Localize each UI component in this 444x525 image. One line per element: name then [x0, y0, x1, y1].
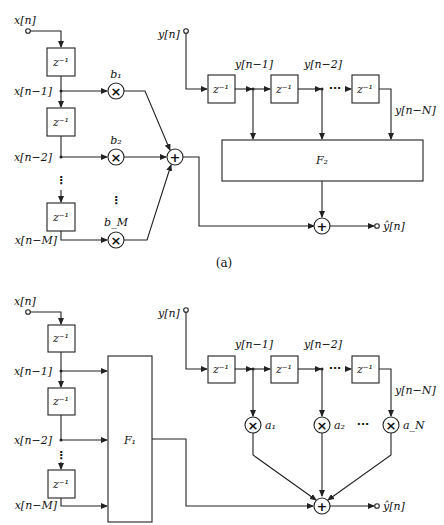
adder-feedforward-symbol: + — [170, 150, 181, 165]
label-y-tapN: y[n−N] — [394, 104, 436, 117]
coef-b2: b₂ — [110, 134, 121, 147]
ellipsis-x-chain-b: ⋮ — [56, 449, 67, 462]
wire-xM-to-mult — [61, 231, 107, 240]
coef-b1: b₁ — [110, 68, 121, 81]
label-x-tap1-b: x[n−1] — [14, 365, 53, 378]
delay-label-y2-b: z⁻¹ — [275, 363, 292, 376]
coef-aN: a_N — [403, 419, 425, 432]
input-node-y-b — [184, 308, 189, 313]
coef-a1: a₁ — [265, 419, 276, 432]
block-f1-label: F₁ — [123, 434, 136, 447]
delay-label-y1: z⁻¹ — [212, 83, 229, 96]
wire-yN-to-f2 — [379, 89, 391, 139]
ellipsis-b-coeffs: ⋮ — [111, 194, 122, 207]
ellipsis-a-coeffs: ··· — [357, 418, 370, 431]
wire-x-in — [30, 31, 61, 47]
label-output: ŷ[n] — [382, 220, 406, 233]
label-x-input-b: x[n] — [14, 295, 37, 308]
delay-label-x1: z⁻¹ — [52, 56, 69, 69]
label-x-tap2: x[n−2] — [14, 151, 53, 164]
delay-label-x2: z⁻¹ — [52, 116, 69, 129]
diagram-b: x[n] z⁻¹ x[n−1] z⁻¹ x[n−2] ⋮ z⁻¹ x[n−M] … — [14, 295, 437, 522]
label-x-tap2-b: x[n−2] — [14, 434, 53, 447]
coef-bM: b_M — [104, 216, 129, 229]
multiplier-aN-symbol: × — [386, 418, 397, 433]
adder-output-symbol: + — [317, 219, 328, 234]
label-y-tap1: y[n−1] — [234, 58, 274, 71]
wire-bM-to-adder — [124, 165, 171, 240]
label-y-input: y[n] — [157, 28, 181, 41]
label-y-tap1-b: y[n−1] — [234, 338, 274, 351]
wire-aN-to-adder — [328, 433, 391, 500]
multiplier-bM-symbol: × — [111, 233, 122, 248]
wire-f1-to-adder — [152, 439, 313, 506]
delay-label-yN: z⁻¹ — [356, 83, 373, 96]
input-node-x — [26, 29, 31, 34]
label-x-input: x[n] — [14, 14, 37, 27]
label-x-tapM-b: x[n−M] — [15, 499, 58, 512]
coef-a2: a₂ — [334, 419, 345, 432]
multiplier-a2-symbol: × — [317, 418, 328, 433]
multiplier-b2-symbol: × — [111, 150, 122, 165]
delay-label-xM: z⁻¹ — [52, 211, 69, 224]
caption-a: (a) — [216, 256, 233, 270]
input-node-y — [184, 29, 189, 34]
label-output-b: ŷ[n] — [382, 500, 406, 513]
diagram-a: x[n] z⁻¹ x[n−1] z⁻¹ x[n−2] ⋮ z⁻¹ x[n−M] … — [14, 14, 437, 270]
output-node — [375, 224, 380, 229]
wire-x-in-b — [30, 312, 61, 324]
delay-label-x2-b: z⁻¹ — [52, 395, 69, 408]
label-x-tapM: x[n−M] — [15, 234, 58, 247]
wire-y-in-b — [186, 312, 207, 369]
label-y-input-b: y[n] — [157, 307, 181, 320]
delay-label-yN-b: z⁻¹ — [356, 363, 373, 376]
multiplier-a1-symbol: × — [248, 418, 259, 433]
label-x-tap1: x[n−1] — [14, 85, 53, 98]
wire-y-in — [186, 33, 207, 89]
ellipsis-y-chain: ··· — [329, 82, 342, 95]
label-y-tap2: y[n−2] — [303, 58, 343, 71]
wire-b1-to-adder — [124, 91, 170, 150]
delay-label-y2: z⁻¹ — [275, 83, 292, 96]
block-f2-label: F₂ — [315, 154, 328, 167]
ellipsis-x-chain: ⋮ — [56, 174, 67, 187]
wire-yN-to-aN — [379, 369, 391, 416]
block-diagram-figure: x[n] z⁻¹ x[n−1] z⁻¹ x[n−2] ⋮ z⁻¹ x[n−M] … — [0, 0, 444, 525]
wire-a1-to-adder — [253, 433, 316, 500]
wire-xM-to-f1 — [61, 498, 107, 506]
ellipsis-y-chain-b: ··· — [329, 362, 342, 375]
delay-label-x1-b: z⁻¹ — [52, 332, 69, 345]
delay-label-xM-b: z⁻¹ — [52, 478, 69, 491]
multiplier-b1-symbol: × — [111, 84, 122, 99]
output-node-b — [375, 504, 380, 509]
label-y-tapN-b: y[n−N] — [394, 384, 436, 397]
adder-output-b-symbol: + — [317, 499, 328, 514]
input-node-x-b — [26, 310, 31, 315]
label-y-tap2-b: y[n−2] — [303, 338, 343, 351]
delay-label-y1-b: z⁻¹ — [212, 363, 229, 376]
